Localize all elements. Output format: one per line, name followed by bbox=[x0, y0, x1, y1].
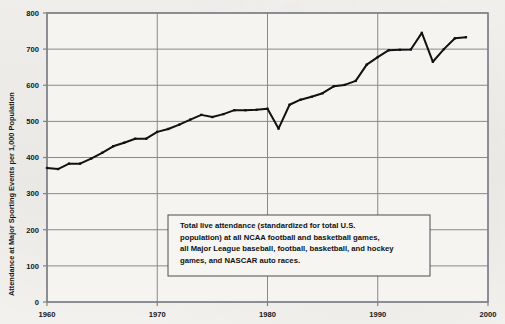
y-axis-tick-label: 200 bbox=[26, 226, 39, 235]
series-data-point bbox=[388, 49, 390, 51]
y-axis-tick-label: 100 bbox=[26, 262, 39, 271]
x-axis-tick-label: 1980 bbox=[259, 310, 276, 319]
series-data-point bbox=[465, 36, 467, 38]
series-data-point bbox=[233, 109, 235, 111]
definition-note-line: Total live attendance (standardized for … bbox=[180, 221, 355, 230]
series-data-point bbox=[200, 114, 202, 116]
series-data-point bbox=[454, 37, 456, 39]
series-data-point bbox=[266, 108, 268, 110]
series-data-point bbox=[333, 85, 335, 87]
definition-note-line: population) at all NCAA football and bas… bbox=[180, 233, 380, 242]
y-axis-tick-label: 700 bbox=[26, 45, 39, 54]
x-axis-tick-label: 2000 bbox=[480, 310, 497, 319]
y-axis-tick-label: 400 bbox=[26, 153, 39, 162]
series-data-point bbox=[355, 80, 357, 82]
definition-note-line: all Major League baseball, football, bas… bbox=[180, 244, 394, 253]
series-data-point bbox=[211, 116, 213, 118]
x-axis-tick-label: 1970 bbox=[149, 310, 166, 319]
series-data-point bbox=[255, 109, 257, 111]
y-axis-tick-label: 300 bbox=[26, 189, 39, 198]
x-axis-tick-label: 1960 bbox=[39, 310, 56, 319]
series-data-point bbox=[90, 157, 92, 159]
series-data-point bbox=[288, 104, 290, 106]
series-data-point bbox=[123, 142, 125, 144]
definition-note-line: games, and NASCAR auto races. bbox=[180, 256, 300, 265]
y-axis-tick-label: 0 bbox=[35, 298, 39, 307]
series-data-point bbox=[167, 128, 169, 130]
series-data-point bbox=[112, 145, 114, 147]
attendance-line-chart: 0100200300400500600700800 19601970198019… bbox=[0, 0, 505, 324]
series-data-point bbox=[277, 127, 279, 129]
series-data-point bbox=[156, 131, 158, 133]
series-data-point bbox=[410, 48, 412, 50]
y-axis-tick-labels: 0100200300400500600700800 bbox=[26, 9, 39, 307]
series-data-point bbox=[377, 56, 379, 58]
x-axis-tick-label: 1990 bbox=[369, 310, 386, 319]
series-data-point bbox=[344, 84, 346, 86]
series-data-point bbox=[321, 92, 323, 94]
series-data-point bbox=[299, 99, 301, 101]
y-axis-tick-label: 800 bbox=[26, 9, 39, 18]
series-data-point bbox=[399, 49, 401, 51]
series-data-point bbox=[68, 162, 70, 164]
series-data-point bbox=[46, 167, 48, 169]
series-data-point bbox=[134, 138, 136, 140]
series-data-point bbox=[244, 109, 246, 111]
y-axis-tick-label: 600 bbox=[26, 81, 39, 90]
x-axis-tick-labels: 19601970198019902000 bbox=[39, 310, 497, 319]
series-data-point bbox=[222, 113, 224, 115]
series-data-point bbox=[432, 61, 434, 63]
series-data-point bbox=[101, 152, 103, 154]
series-data-point bbox=[421, 32, 423, 34]
series-data-point bbox=[79, 162, 81, 164]
series-data-point bbox=[366, 64, 368, 66]
series-data-point bbox=[57, 168, 59, 170]
y-axis-title: Attendance at Major Sporting Events per … bbox=[7, 92, 16, 296]
series-data-point bbox=[178, 123, 180, 125]
series-data-point bbox=[189, 118, 191, 120]
series-data-point bbox=[145, 138, 147, 140]
series-data-point bbox=[310, 96, 312, 98]
series-data-point bbox=[443, 48, 445, 50]
y-axis-tick-label: 500 bbox=[26, 117, 39, 126]
